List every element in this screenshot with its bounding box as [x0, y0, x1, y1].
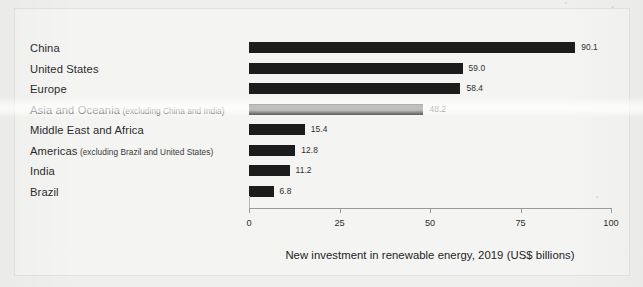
category-label: India	[30, 161, 55, 181]
bar	[249, 83, 460, 94]
bar-value-label: 59.0	[469, 62, 486, 75]
category-name: Americas	[30, 145, 78, 157]
category-label: Americas (excluding Brazil and United St…	[30, 141, 213, 161]
category-name: Europe	[30, 83, 67, 95]
tick-mark	[430, 208, 431, 213]
tick-mark	[340, 208, 341, 213]
category-qualifier: (excluding Brazil and United States)	[78, 147, 214, 157]
bar-row: Europe58.4	[0, 79, 643, 99]
category-label: Brazil	[30, 182, 59, 202]
category-name: India	[30, 165, 55, 177]
bar-value-label: 11.2	[296, 164, 312, 177]
tick-mark	[521, 208, 522, 213]
bar-value-label: 48.2	[429, 103, 446, 116]
bar	[249, 165, 290, 176]
category-name: Asia and Oceania	[30, 104, 120, 116]
tick-mark	[249, 208, 250, 213]
bar-row: China90.1	[0, 38, 643, 58]
bar	[249, 104, 423, 115]
x-axis-title: New investment in renewable energy, 2019…	[249, 249, 611, 261]
tick-mark	[611, 208, 612, 213]
bar-row: United States59.0	[0, 59, 643, 79]
bar-value-label: 15.4	[311, 123, 328, 136]
bar-value-label: 58.4	[466, 82, 483, 95]
bar	[249, 145, 295, 156]
tick-label: 25	[334, 216, 344, 230]
category-name: Brazil	[30, 186, 59, 198]
category-name: Middle East and Africa	[30, 124, 144, 136]
tick-label: 75	[515, 216, 525, 230]
bar	[249, 124, 305, 135]
bar-value-label: 12.8	[301, 144, 318, 157]
category-name: China	[30, 42, 60, 54]
category-label: Asia and Oceania (excluding China and In…	[30, 100, 225, 120]
category-label: United States	[30, 59, 99, 79]
bar	[249, 186, 274, 197]
scanned-page: China90.1United States59.0Europe58.4Asia…	[0, 0, 643, 287]
bar-row: Americas (excluding Brazil and United St…	[0, 141, 643, 161]
bar-row: India11.2	[0, 161, 643, 181]
bar-row: Middle East and Africa15.4	[0, 120, 643, 140]
bar-row: Asia and Oceania (excluding China and In…	[0, 100, 643, 120]
bar-value-label: 6.8	[280, 185, 292, 198]
bar	[249, 63, 463, 74]
bar	[249, 42, 575, 53]
horizontal-bar-chart: China90.1United States59.0Europe58.4Asia…	[0, 0, 643, 287]
tick-label: 100	[603, 216, 618, 230]
tick-label: 50	[425, 216, 435, 230]
bar-row: Brazil6.8	[0, 182, 643, 202]
category-label: Europe	[30, 79, 67, 99]
category-label: Middle East and Africa	[30, 120, 144, 140]
category-qualifier: (excluding China and India)	[120, 106, 224, 116]
category-label: China	[30, 38, 60, 58]
category-name: United States	[30, 63, 99, 75]
tick-label: 0	[246, 216, 251, 230]
bar-value-label: 90.1	[581, 41, 598, 54]
